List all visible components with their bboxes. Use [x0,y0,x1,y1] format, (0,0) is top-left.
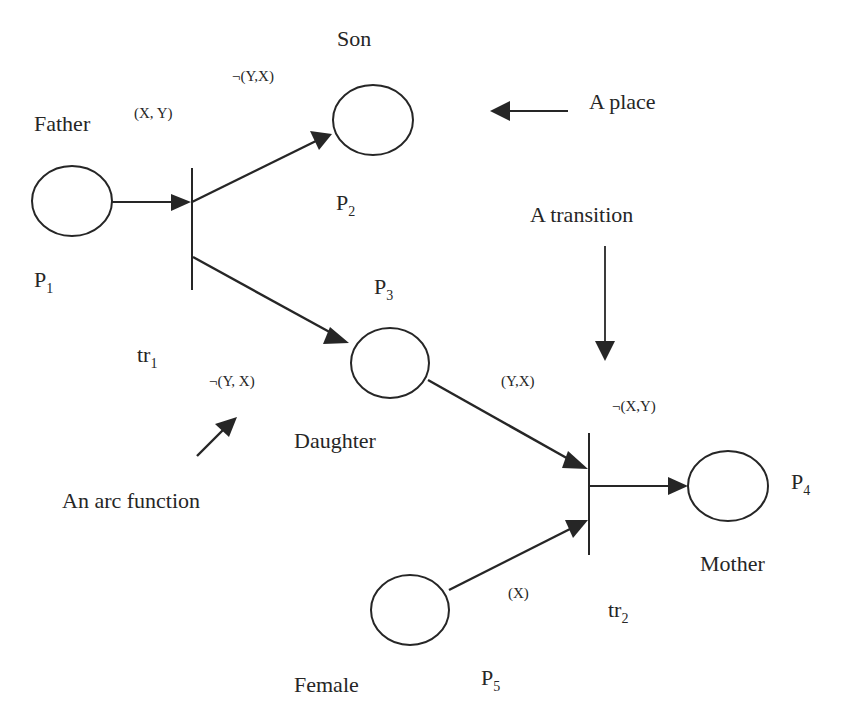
place-name-female: Female [294,672,359,697]
place-id-p1: P1 [34,267,53,296]
place-name-son: Son [337,26,371,51]
arc-function-p3-tr2: (Y,X) [501,373,534,390]
arrow-down-icon [595,341,615,361]
place-name-daughter: Daughter [294,428,377,453]
arrowhead-icon [171,194,191,211]
arc-function-tr1-p2: ¬(Y,X) [232,68,274,85]
place-name-mother: Mother [700,551,765,576]
place-id-p2: P2 [336,190,355,219]
petri-net-diagram: Father Son Daughter Mother Female P1 P2 … [0,0,849,719]
transition-label-tr1: tr1 [137,342,157,371]
place-id-p3: P3 [374,274,393,303]
arc-p5-tr2 [449,528,572,590]
annotation-arrow-arc-function [197,428,225,456]
arc-function-tr1-p3: ¬(Y, X) [209,373,255,390]
arrowhead-icon [562,451,588,469]
place-p2-son [333,85,413,155]
arc-function-p5-tr2: (X) [508,585,529,602]
arrowhead-icon [310,131,332,150]
arc-tr1-p2 [192,140,318,202]
arc-p3-tr2 [428,380,572,461]
place-p1-father [32,166,112,236]
place-p3-daughter [351,328,429,398]
arrowhead-icon [668,477,688,495]
place-id-p4: P4 [791,469,810,498]
transition-label-tr2: tr2 [608,597,628,626]
place-name-father: Father [34,111,91,136]
place-p4-mother [688,451,768,521]
place-id-p5: P5 [481,665,500,694]
annotation-place: A place [589,89,656,114]
arrow-left-icon [490,101,510,121]
arc-function-p1-tr1: (X, Y) [134,105,173,122]
place-p5-female [371,575,449,645]
annotation-transition: A transition [530,202,633,227]
arc-function-tr2-p4: ¬(X,Y) [612,398,656,415]
annotation-arc-function: An arc function [62,488,200,513]
arc-tr1-p3 [193,257,335,335]
